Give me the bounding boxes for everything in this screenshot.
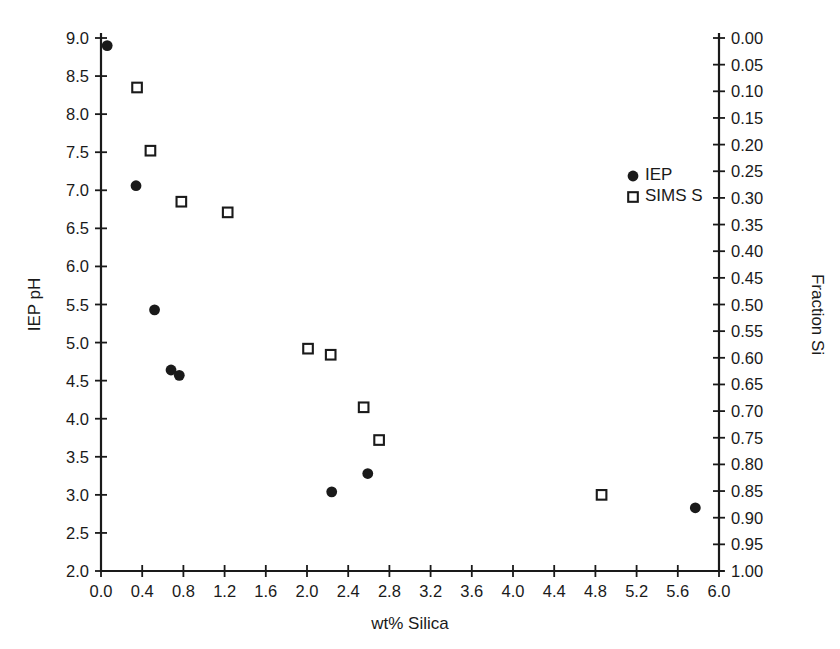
legend-sims-marker-sims bbox=[628, 192, 638, 202]
y-tick-label-left: 8.0 bbox=[66, 105, 89, 123]
y-tick-label-right: 1.00 bbox=[731, 562, 763, 580]
legend: IEPSIMS S bbox=[628, 165, 703, 205]
y-tick-label-left: 4.0 bbox=[66, 410, 89, 428]
y-tick-label-right: 0.90 bbox=[731, 509, 763, 527]
data-point-marker-iep bbox=[362, 468, 373, 479]
y-tick-label-right: 0.75 bbox=[731, 429, 763, 447]
y-tick-label-left: 2.5 bbox=[66, 524, 89, 542]
y-tick-label-right: 0.95 bbox=[731, 535, 763, 553]
x-tick-label: 3.6 bbox=[460, 582, 483, 600]
x-tick-label: 2.0 bbox=[296, 582, 319, 600]
series-sims-s bbox=[132, 83, 606, 500]
y-tick-label-right: 0.20 bbox=[731, 136, 763, 154]
legend-label: IEP bbox=[645, 165, 672, 184]
y-tick-label-right: 0.30 bbox=[731, 189, 763, 207]
x-tick-label: 2.8 bbox=[378, 582, 401, 600]
data-point-marker-iep bbox=[149, 304, 160, 315]
y-tick-label-right: 0.85 bbox=[731, 482, 763, 500]
x-axis-title: wt% Silica bbox=[370, 614, 449, 633]
y-tick-label-right: 0.00 bbox=[731, 29, 763, 47]
data-point-marker-iep bbox=[174, 370, 185, 381]
y-tick-label-right: 0.10 bbox=[731, 82, 763, 100]
series-iep bbox=[102, 40, 701, 513]
data-point-marker-sims bbox=[597, 490, 607, 500]
data-point-marker-sims bbox=[326, 350, 336, 360]
y-axis-right-title: Fraction Si bbox=[808, 274, 827, 355]
y-tick-label-right: 0.15 bbox=[731, 109, 763, 127]
scatter-chart-figure: 2.02.53.03.54.04.55.05.56.06.57.07.58.08… bbox=[0, 0, 840, 649]
y-tick-label-left: 6.0 bbox=[66, 257, 89, 275]
y-tick-label-left: 5.5 bbox=[66, 296, 89, 314]
x-tick-label: 0.8 bbox=[172, 582, 195, 600]
x-tick-label: 4.8 bbox=[584, 582, 607, 600]
x-tick-label: 1.2 bbox=[213, 582, 236, 600]
y-tick-label-left: 9.0 bbox=[66, 29, 89, 47]
legend-label: SIMS S bbox=[645, 186, 703, 205]
y-tick-label-right: 0.65 bbox=[731, 375, 763, 393]
x-tick-label: 0.4 bbox=[131, 582, 154, 600]
y-tick-label-right: 0.50 bbox=[731, 296, 763, 314]
data-point-marker-sims bbox=[223, 208, 233, 218]
data-point-marker-iep bbox=[102, 40, 113, 51]
y-tick-label-left: 6.5 bbox=[66, 219, 89, 237]
y-tick-label-left: 7.0 bbox=[66, 181, 89, 199]
data-point-marker-iep bbox=[690, 502, 701, 513]
data-point-marker-iep bbox=[326, 486, 337, 497]
y-tick-label-left: 5.0 bbox=[66, 334, 89, 352]
x-tick-label: 1.6 bbox=[254, 582, 277, 600]
y-tick-label-right: 0.25 bbox=[731, 162, 763, 180]
x-tick-label: 6.0 bbox=[708, 582, 731, 600]
x-tick-label: 3.2 bbox=[419, 582, 442, 600]
y-tick-label-right: 0.05 bbox=[731, 56, 763, 74]
y-tick-label-left: 3.5 bbox=[66, 448, 89, 466]
legend-iep-marker-iep bbox=[628, 171, 639, 182]
data-point-marker-sims bbox=[374, 435, 384, 445]
x-tick-label: 5.6 bbox=[666, 582, 689, 600]
y-tick-label-right: 0.60 bbox=[731, 349, 763, 367]
plot-canvas: 2.02.53.03.54.04.55.05.56.06.57.07.58.08… bbox=[0, 0, 840, 649]
y-tick-label-right: 0.45 bbox=[731, 269, 763, 287]
data-point-marker-sims bbox=[146, 146, 156, 156]
y-tick-label-right: 0.70 bbox=[731, 402, 763, 420]
y-tick-label-right: 0.80 bbox=[731, 455, 763, 473]
y-tick-label-left: 4.5 bbox=[66, 372, 89, 390]
x-tick-label: 4.4 bbox=[543, 582, 566, 600]
y-tick-label-left: 2.0 bbox=[66, 562, 89, 580]
data-point-marker-sims bbox=[177, 197, 187, 207]
x-tick-label: 0.0 bbox=[90, 582, 113, 600]
y-tick-label-left: 3.0 bbox=[66, 486, 89, 504]
data-point-marker-sims bbox=[132, 83, 142, 93]
x-tick-label: 5.2 bbox=[625, 582, 648, 600]
y-tick-label-right: 0.40 bbox=[731, 242, 763, 260]
data-point-marker-iep bbox=[131, 180, 142, 191]
data-point-marker-sims bbox=[359, 402, 369, 412]
x-tick-label: 4.0 bbox=[502, 582, 525, 600]
y-tick-label-right: 0.55 bbox=[731, 322, 763, 340]
y-tick-label-left: 8.5 bbox=[66, 67, 89, 85]
y-axis-left-title: IEP pH bbox=[25, 278, 44, 332]
y-tick-label-right: 0.35 bbox=[731, 216, 763, 234]
data-point-marker-sims bbox=[303, 344, 313, 354]
y-axis-right-ticks: 0.000.050.100.150.200.250.300.350.400.45… bbox=[713, 29, 763, 580]
x-tick-label: 2.4 bbox=[337, 582, 360, 600]
y-tick-label-left: 7.5 bbox=[66, 143, 89, 161]
